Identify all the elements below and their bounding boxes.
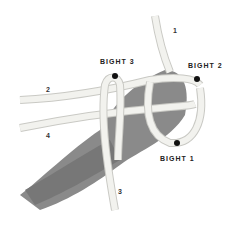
strand-1-number: 1 bbox=[173, 27, 177, 34]
bight-2-marker bbox=[194, 76, 200, 82]
knot-photo: BIGHT 3 BIGHT 2 BIGHT 1 1 2 4 3 bbox=[0, 0, 238, 228]
strand-2-number: 2 bbox=[46, 86, 50, 93]
strand-3-number: 3 bbox=[118, 188, 122, 195]
strand-4-number: 4 bbox=[46, 132, 50, 139]
bight-1-label: BIGHT 1 bbox=[160, 155, 195, 162]
bight-3-marker bbox=[112, 73, 118, 79]
bight-1-marker bbox=[174, 140, 180, 146]
bight-3-label: BIGHT 3 bbox=[100, 58, 135, 65]
bight-2-label: BIGHT 2 bbox=[188, 62, 223, 69]
